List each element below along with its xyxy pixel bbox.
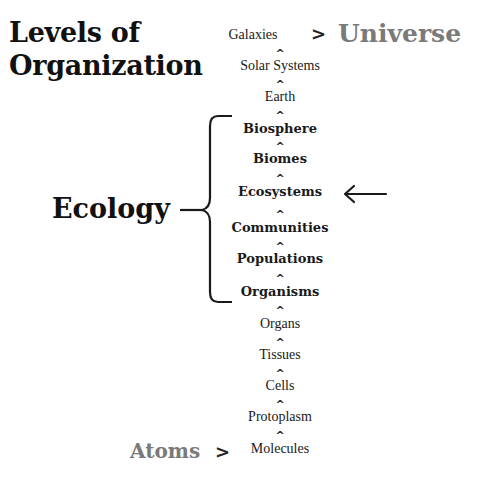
level-tissues: Tissues (180, 347, 380, 363)
level-solar-systems: Solar Systems (180, 58, 380, 74)
level-earth: Earth (180, 89, 380, 105)
ecology-label: Ecology (52, 193, 170, 224)
title-line-2: Organization (9, 49, 203, 82)
left-arrow-icon (342, 184, 388, 204)
level-protoplasm: Protoplasm (180, 409, 380, 425)
curly-brace-icon (180, 110, 240, 310)
level-galaxies: Galaxies (153, 27, 353, 43)
universe-label: Universe (338, 19, 461, 48)
level-cells: Cells (180, 378, 380, 394)
caret-icon: ^ (180, 431, 380, 441)
level-molecules: Molecules (180, 441, 380, 457)
diagram-title: Levels of Organization (9, 16, 203, 82)
level-organs: Organs (180, 316, 380, 332)
